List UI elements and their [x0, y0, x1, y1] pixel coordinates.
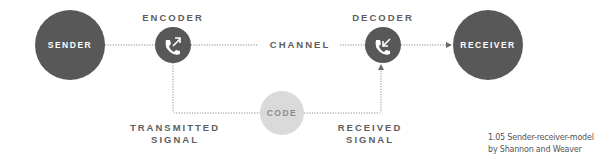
- received-label-line2: SIGNAL: [330, 134, 410, 146]
- received-label-line1: RECEIVED: [330, 122, 410, 134]
- channel-label: CHANNEL: [259, 39, 341, 51]
- figure-caption: 1.05 Sender-receiver-model by Shannon an…: [488, 132, 594, 156]
- transmitted-signal-label: TRANSMITTED SIGNAL: [125, 122, 225, 146]
- caption-line2: by Shannon and Weaver: [488, 144, 594, 156]
- decoder-label: DECODER: [343, 12, 423, 24]
- transmitted-label-line1: TRANSMITTED: [125, 122, 225, 134]
- arrow-to-decoder-icon: [378, 64, 384, 70]
- encoder-label: ENCODER: [133, 12, 213, 24]
- code-label: CODE: [260, 108, 304, 118]
- caption-line1: 1.05 Sender-receiver-model: [488, 132, 594, 144]
- received-signal-label: RECEIVED SIGNAL: [330, 122, 410, 146]
- arrow-to-receiver-icon: [446, 42, 452, 48]
- sender-label: SENDER: [35, 40, 105, 50]
- encoder-code-line: [173, 63, 260, 113]
- transmitted-label-line2: SIGNAL: [125, 134, 225, 146]
- receiver-label: RECEIVER: [453, 40, 523, 50]
- code-decoder-line: [304, 70, 381, 113]
